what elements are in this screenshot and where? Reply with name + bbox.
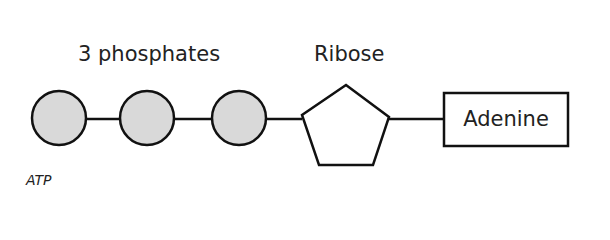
phosphate-3: [212, 91, 266, 145]
ribose-pentagon: [302, 85, 389, 165]
ribose-label: Ribose: [314, 42, 384, 66]
phosphate-1: [32, 91, 86, 145]
atp-caption: ATP: [26, 172, 52, 188]
adenine-label: Adenine: [444, 93, 568, 146]
phosphates-label: 3 phosphates: [78, 42, 220, 66]
phosphate-2: [120, 91, 174, 145]
